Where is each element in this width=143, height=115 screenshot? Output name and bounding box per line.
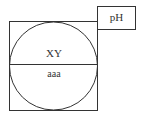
ph-label: pH — [97, 12, 136, 23]
xy-label: XY — [34, 48, 74, 59]
circle — [10, 22, 98, 110]
aaa-label: aaa — [34, 69, 74, 79]
